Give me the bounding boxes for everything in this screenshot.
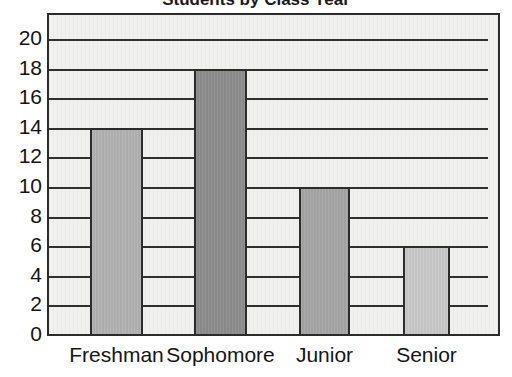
y-tick-label-0: 0 <box>0 323 42 344</box>
bar-freshman <box>90 128 143 336</box>
y-tick-label-10: 10 <box>0 175 42 196</box>
gridline-18 <box>49 69 488 71</box>
bar-chart-figure: Students by Class Year 20181614121086420… <box>0 0 512 377</box>
x-tick-label-senior: Senior <box>396 344 457 366</box>
y-tick-label-6: 6 <box>0 234 42 255</box>
y-tick-label-8: 8 <box>0 205 42 226</box>
bar-junior <box>299 187 350 336</box>
x-tick-label-sophomore: Sophomore <box>166 344 275 366</box>
y-tick-label-20: 20 <box>0 27 42 48</box>
gridline-16 <box>49 98 488 100</box>
chart-title-text: Students by Class Year <box>0 0 512 8</box>
y-tick-label-18: 18 <box>0 57 42 78</box>
plot-area <box>47 13 500 336</box>
x-tick-label-freshman: Freshman <box>69 344 164 366</box>
gridline-20 <box>49 39 488 41</box>
chart-title-clipped: Students by Class Year <box>0 0 512 9</box>
y-tick-label-2: 2 <box>0 293 42 314</box>
y-axis-tick-labels: 20181614121086420 <box>0 0 42 377</box>
bar-senior <box>403 246 450 336</box>
y-tick-label-4: 4 <box>0 264 42 285</box>
y-tick-label-14: 14 <box>0 116 42 137</box>
y-tick-label-12: 12 <box>0 145 42 166</box>
x-tick-label-junior: Junior <box>296 344 353 366</box>
y-tick-label-16: 16 <box>0 86 42 107</box>
bar-sophomore <box>194 69 247 336</box>
